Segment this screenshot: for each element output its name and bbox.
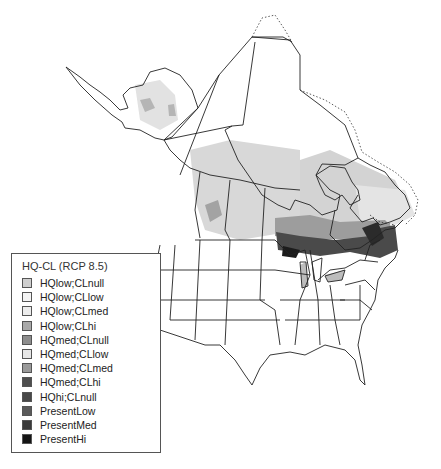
legend-item: PresentLow xyxy=(22,404,160,418)
legend-item: HQlow;CLmed xyxy=(22,304,160,318)
habitat-shading xyxy=(135,80,415,288)
legend-swatch xyxy=(22,335,32,345)
legend-swatch xyxy=(22,434,32,444)
legend-label: HQlow;CLhi xyxy=(40,320,96,332)
legend-label: HQmed;CLnull xyxy=(40,334,109,346)
legend-swatch xyxy=(22,321,32,331)
legend-item: PresentMed xyxy=(22,418,160,432)
legend-label: HQlow;CLmed xyxy=(40,305,108,317)
legend-label: PresentHi xyxy=(40,433,86,445)
legend-item: HQmed;CLhi xyxy=(22,375,160,389)
legend-item: HQlow;CLhi xyxy=(22,319,160,333)
legend-swatch xyxy=(22,377,32,387)
legend-item: HQlow;CLnull xyxy=(22,276,160,290)
legend-swatch xyxy=(22,392,32,402)
legend-label: HQmed;CLhi xyxy=(40,376,101,388)
legend-item: HQmed;CLlow xyxy=(22,347,160,361)
legend-swatch xyxy=(22,306,32,316)
legend-title: HQ-CL (RCP 8.5) xyxy=(22,260,160,272)
legend-label: HQmed;CLmed xyxy=(40,362,113,374)
legend-item: HQlow;CLlow xyxy=(22,290,160,304)
legend-swatch xyxy=(22,363,32,373)
legend-label: HQmed;CLlow xyxy=(40,348,108,360)
legend-item: HQhi;CLnull xyxy=(22,390,160,404)
legend-item: HQmed;CLmed xyxy=(22,361,160,375)
legend-swatch xyxy=(22,292,32,302)
legend-swatch xyxy=(22,406,32,416)
legend-label: HQlow;CLnull xyxy=(40,277,104,289)
legend: HQ-CL (RCP 8.5) HQlow;CLnull HQlow;CLlow… xyxy=(11,253,161,453)
legend-label: HQhi;CLnull xyxy=(40,391,97,403)
legend-swatch xyxy=(22,349,32,359)
legend-item: HQmed;CLnull xyxy=(22,333,160,347)
legend-swatch xyxy=(22,278,32,288)
legend-item: PresentHi xyxy=(22,432,160,446)
legend-label: PresentLow xyxy=(40,405,95,417)
legend-label: HQlow;CLlow xyxy=(40,291,104,303)
legend-label: PresentMed xyxy=(40,419,97,431)
legend-swatch xyxy=(22,420,32,430)
